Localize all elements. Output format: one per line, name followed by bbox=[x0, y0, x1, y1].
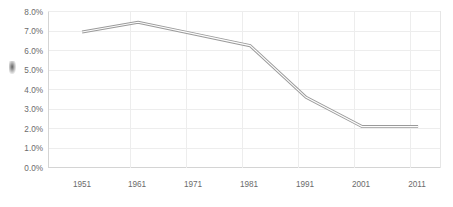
xtick-label-1951: 1951 bbox=[73, 180, 92, 189]
xtick-label-1981: 1981 bbox=[240, 180, 259, 189]
ytick-label-4: 4.0% bbox=[24, 86, 43, 95]
xtick-label-1991: 1991 bbox=[296, 180, 315, 189]
ytick-label-6: 6.0% bbox=[24, 47, 43, 56]
line-chart: 8.0% 7.0% 6.0% 5.0% 4.0% 3.0% 2.0% 1.0% … bbox=[0, 0, 453, 207]
ytick-label-3: 3.0% bbox=[24, 105, 43, 114]
y-axis-tick-labels: 8.0% 7.0% 6.0% 5.0% 4.0% 3.0% 2.0% 1.0% … bbox=[24, 8, 43, 173]
xtick-label-2001: 2001 bbox=[352, 180, 371, 189]
ytick-label-7: 7.0% bbox=[24, 27, 43, 36]
ytick-label-0: 0.0% bbox=[24, 164, 43, 173]
chart-canvas: 8.0% 7.0% 6.0% 5.0% 4.0% 3.0% 2.0% 1.0% … bbox=[0, 0, 453, 207]
xtick-label-2011: 2011 bbox=[408, 180, 426, 189]
ytick-label-5: 5.0% bbox=[24, 66, 43, 75]
ytick-label-2: 2.0% bbox=[24, 125, 43, 134]
xtick-label-1961: 1961 bbox=[128, 180, 147, 189]
ytick-label-8: 8.0% bbox=[24, 8, 43, 17]
xtick-label-1971: 1971 bbox=[184, 180, 203, 189]
ytick-label-1: 1.0% bbox=[24, 144, 43, 153]
